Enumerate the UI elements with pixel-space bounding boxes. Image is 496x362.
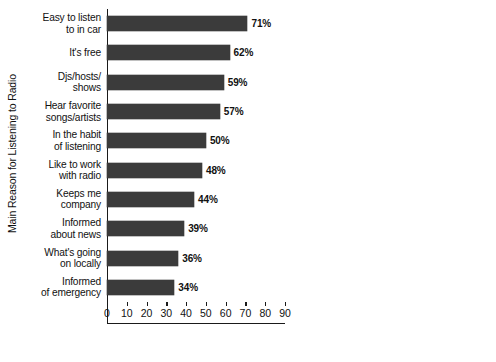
bar: [107, 133, 206, 148]
bar-row: 59%: [107, 75, 285, 90]
category-label: Informedabout news: [50, 214, 101, 243]
x-tick-label: 30: [160, 307, 172, 319]
x-tick-label: 70: [240, 307, 252, 319]
category-label-line: It's free: [69, 47, 101, 59]
bar-row: 34%: [107, 280, 285, 295]
x-tick-mark: [265, 302, 266, 306]
category-label: In the habitof listening: [52, 126, 101, 155]
left-bar-chart-panel: Main Reason for Listening to Radio Easy …: [0, 0, 286, 362]
bar: [107, 45, 230, 60]
left-plot-area: Easy to listento in carIt's freeDjs/host…: [107, 9, 285, 324]
x-tick-label: 10: [121, 307, 133, 319]
left-category-labels: Easy to listento in carIt's freeDjs/host…: [17, 9, 101, 324]
category-label-line: Hear favorite: [45, 100, 101, 112]
category-label-line: Informed: [62, 217, 101, 229]
category-label: Keeps mecompany: [56, 185, 101, 214]
category-label-line: to in car: [66, 24, 101, 36]
x-tick-mark: [186, 302, 187, 306]
x-tick-mark: [127, 302, 128, 306]
bar-row: 39%: [107, 221, 285, 236]
x-tick-mark: [206, 302, 207, 306]
right-bar-chart-panel: Get in bettermoodEnjoy talkshowsWeatherE…: [286, 0, 496, 362]
x-tick-mark: [226, 302, 227, 306]
x-tick-label: 40: [180, 307, 192, 319]
bar-value-label: 48%: [206, 165, 226, 176]
category-label: Djs/hosts/shows: [58, 68, 101, 97]
bar-row: 71%: [107, 16, 285, 31]
bar: [107, 192, 194, 207]
x-tick-mark: [245, 302, 246, 306]
bar: [107, 280, 174, 295]
x-tick-mark: [166, 302, 167, 306]
left-x-axis-ticks: 0102030405060708090: [107, 302, 285, 324]
bar-row: 62%: [107, 45, 285, 60]
bar-row: 50%: [107, 133, 285, 148]
x-tick-mark: [107, 302, 108, 306]
category-label-line: What's going: [44, 247, 101, 259]
category-label-line: Informed: [62, 276, 101, 288]
x-tick-label: 60: [220, 307, 232, 319]
x-tick-label: 80: [259, 307, 271, 319]
bar: [107, 163, 202, 178]
x-tick-label: 0: [104, 307, 110, 319]
bar-row: 44%: [107, 192, 285, 207]
bar-value-label: 71%: [251, 18, 271, 29]
bar: [107, 16, 247, 31]
category-label: What's goingon locally: [44, 243, 101, 272]
bar-row: 57%: [107, 104, 285, 119]
x-tick-mark: [147, 302, 148, 306]
category-label: Easy to listento in car: [43, 9, 102, 38]
category-label-line: Easy to listen: [43, 12, 102, 24]
category-label: It's free: [69, 38, 101, 67]
bar-value-label: 39%: [188, 223, 208, 234]
chart-figure: Main Reason for Listening to Radio Easy …: [0, 0, 496, 362]
bar: [107, 251, 178, 266]
category-label-line: Djs/hosts/: [58, 71, 101, 83]
category-label-line: with radio: [59, 170, 101, 182]
category-label-line: Like to work: [48, 159, 101, 171]
category-label-line: company: [61, 199, 101, 211]
bar-value-label: 59%: [228, 77, 248, 88]
category-label-line: In the habit: [52, 129, 101, 141]
category-label: Hear favoritesongs/artists: [45, 97, 101, 126]
bar-value-label: 36%: [182, 253, 202, 264]
bar-row: 48%: [107, 163, 285, 178]
x-tick-label: 20: [141, 307, 153, 319]
x-tick-label: 50: [200, 307, 212, 319]
category-label-line: songs/artists: [46, 112, 101, 124]
bar: [107, 75, 224, 90]
category-label-line: of emergency: [41, 287, 101, 299]
left-bar-rows: 71%62%59%57%50%48%44%39%36%34%: [107, 9, 285, 324]
bar-value-label: 50%: [210, 135, 230, 146]
category-label-line: of listening: [54, 141, 101, 153]
bar-value-label: 57%: [224, 106, 244, 117]
bar: [107, 104, 220, 119]
category-label-line: about news: [50, 229, 101, 241]
category-label-line: on locally: [60, 258, 101, 270]
bar-value-label: 34%: [178, 282, 198, 293]
category-label-line: shows: [73, 82, 101, 94]
category-label-line: Keeps me: [56, 188, 101, 200]
category-label: Informedof emergency: [41, 273, 101, 302]
category-label: Like to workwith radio: [48, 156, 101, 185]
bar-row: 36%: [107, 251, 285, 266]
bar-value-label: 44%: [198, 194, 218, 205]
bar: [107, 221, 184, 236]
bar-value-label: 62%: [234, 47, 254, 58]
